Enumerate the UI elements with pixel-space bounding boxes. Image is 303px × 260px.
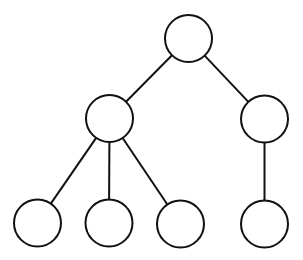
- node-leaf-3: [157, 201, 204, 248]
- edge-root-to-right-mid: [205, 56, 249, 102]
- node-leaf-1: [14, 200, 61, 247]
- edge-left-mid-to-leaf-1: [51, 138, 96, 204]
- edge-left-mid-to-leaf-3: [123, 138, 168, 205]
- node-root: [165, 15, 212, 62]
- edge-root-to-left-mid: [126, 55, 172, 102]
- node-leaf-4: [241, 201, 288, 248]
- nodes-group: [14, 15, 288, 248]
- tree-diagram-svg: [0, 0, 303, 260]
- node-left-mid: [86, 95, 133, 142]
- node-right-mid: [241, 96, 288, 143]
- tree-diagram: [0, 0, 303, 260]
- node-leaf-2: [86, 200, 133, 247]
- edges-group: [51, 55, 265, 204]
